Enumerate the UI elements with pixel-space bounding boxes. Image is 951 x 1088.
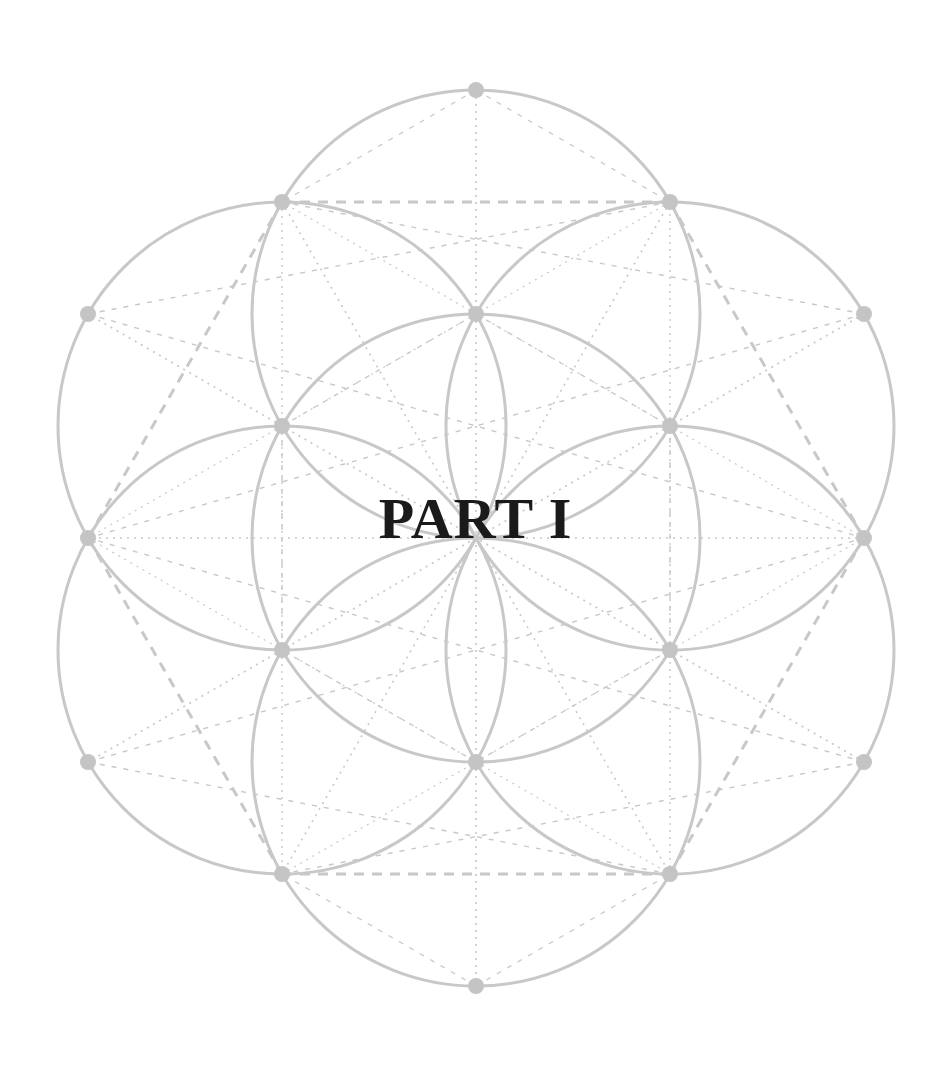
dashed-edge-line <box>476 90 670 202</box>
vertex-dot <box>662 642 678 658</box>
dashed-edge-line <box>476 874 670 986</box>
vertex-dot <box>856 306 872 322</box>
vertex-dot <box>274 194 290 210</box>
vertex-dot <box>274 418 290 434</box>
vertex-dot <box>856 754 872 770</box>
vertex-dot <box>662 418 678 434</box>
dashed-edge-line <box>282 90 476 202</box>
vertex-dot <box>80 306 96 322</box>
vertex-dot <box>662 866 678 882</box>
vertex-dot <box>662 194 678 210</box>
dashed-edge-line <box>282 874 476 986</box>
vertex-dot <box>468 754 484 770</box>
vertex-dot <box>468 306 484 322</box>
vertex-dot <box>468 82 484 98</box>
vertex-dot <box>468 978 484 994</box>
dashed-outer-hex-line <box>88 538 282 874</box>
part-title: PART I <box>0 490 951 548</box>
dashed-outer-hex-line <box>88 202 282 538</box>
vertex-dot <box>80 754 96 770</box>
vertex-dot <box>274 642 290 658</box>
vertex-dot <box>274 866 290 882</box>
